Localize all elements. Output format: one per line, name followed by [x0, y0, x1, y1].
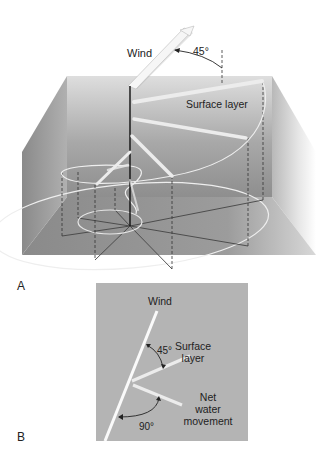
- b-net-label-3: movement: [183, 415, 232, 427]
- panel-a: Wind 45° Surface layer: [0, 26, 316, 280]
- panel-b: Wind 45° Surface layer Net water movemen…: [96, 283, 248, 441]
- water-box: [22, 76, 316, 255]
- angle-label-45: 45°: [193, 45, 209, 57]
- b-net-label-2: water: [194, 403, 221, 415]
- surface-layer-label: Surface layer: [186, 98, 248, 110]
- ekman-spiral-figure: Wind 45° Surface layer Wind 45° Surface …: [0, 0, 329, 462]
- b-net-label-1: Net: [200, 391, 216, 403]
- panel-a-letter: A: [17, 279, 25, 293]
- b-angle-90-label: 90°: [139, 421, 154, 432]
- panel-b-letter: B: [17, 430, 25, 444]
- b-surface-label-1: Surface: [175, 340, 211, 352]
- b-angle-45-label: 45°: [157, 345, 172, 356]
- wind-label: Wind: [127, 47, 152, 59]
- floor: [22, 197, 316, 255]
- b-surface-label-2: layer: [182, 352, 205, 364]
- b-wind-label: Wind: [148, 295, 172, 307]
